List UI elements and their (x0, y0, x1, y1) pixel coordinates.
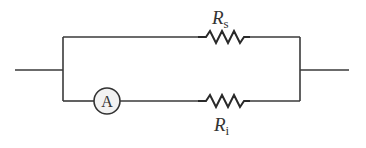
ammeter: A (94, 88, 120, 114)
internal-resistor-icon (198, 95, 250, 107)
shunt-resistor-label: Rs (211, 7, 229, 31)
ammeter-label: A (101, 93, 113, 110)
internal-resistor-label: Ri (213, 114, 230, 138)
circuit-diagram: Rs A Ri (0, 0, 366, 148)
shunt-resistor-icon (198, 31, 250, 43)
top-branch: Rs (63, 7, 300, 43)
bottom-branch: A Ri (63, 88, 300, 138)
